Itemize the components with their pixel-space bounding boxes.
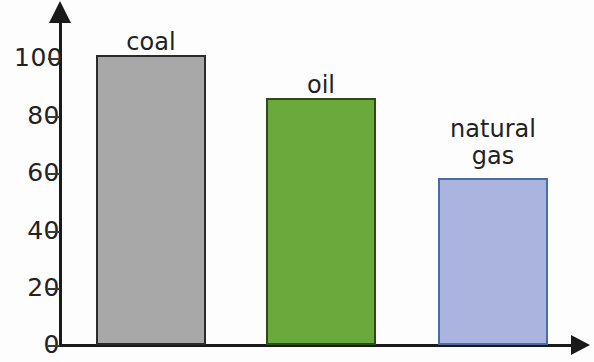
y-tick-mark — [48, 345, 60, 347]
y-tick-mark — [48, 116, 60, 118]
y-tick-mark — [48, 58, 60, 60]
y-axis-arrow-icon — [49, 1, 71, 23]
bar-label-natural-gas: natural gas — [408, 116, 578, 170]
bar-natural-gas — [438, 178, 548, 345]
bar-label-coal: coal — [66, 29, 236, 56]
x-axis-arrow-icon — [571, 335, 590, 355]
y-tick-mark — [48, 173, 60, 175]
y-tick-mark — [48, 288, 60, 290]
bar-oil — [266, 98, 376, 345]
bar-chart: 100 80 60 40 20 0 coal oil natural gas — [0, 0, 594, 362]
bar-label-oil: oil — [236, 72, 406, 99]
y-tick-mark — [48, 231, 60, 233]
bar-coal — [96, 55, 206, 345]
